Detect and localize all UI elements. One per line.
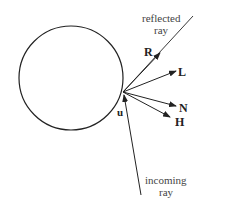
l-vector-arrow: [123, 71, 176, 92]
incoming-label-line1: incoming: [145, 174, 187, 186]
l-label: L: [178, 65, 186, 79]
incoming-label-line2: ray: [159, 186, 174, 198]
incoming-ray-arrow: [124, 95, 141, 195]
reflected-label-line1: reflected: [142, 12, 181, 24]
h-vector-arrow: [123, 92, 170, 117]
reflection-diagram: reflected ray R L N H u incoming ray: [0, 0, 250, 214]
u-label: u: [117, 106, 123, 118]
n-vector-arrow: [123, 92, 176, 106]
r-label: R: [144, 45, 153, 59]
h-label: H: [175, 115, 185, 129]
n-label: N: [179, 101, 188, 115]
sphere-circle: [19, 26, 123, 130]
r-vector-arrow: [123, 53, 160, 92]
reflected-label-line2: ray: [154, 24, 169, 36]
